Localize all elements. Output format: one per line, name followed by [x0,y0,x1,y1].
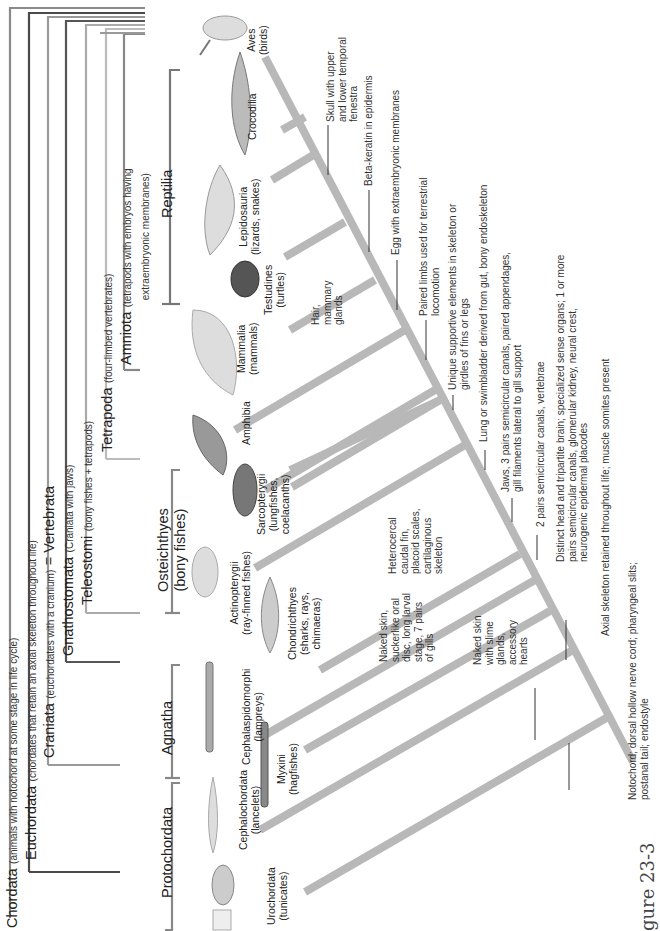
label-chordata: Chordata (animals with notochord at some… [3,638,21,928]
turtle-illustration [225,252,265,307]
trait-mammalia: Hair,mammaryglands [310,281,345,325]
character-lung: Lung or swimbladder derived from gut, bo… [478,185,490,442]
taxon-myxini: Myxini(hagfishes) [275,743,299,795]
label-teleostomi: Teleostomi (bony fishes + tetrapods) [78,421,96,605]
character-distinct-head: Distinct head and tripartite brain; spec… [555,255,590,562]
label-euchordata: Euchordata (chordates that retain an axi… [22,540,40,860]
label-osteichthyes: Osteichthyes (bony fishes) [155,508,188,592]
taxon-testudines: Testudines(turtles) [262,265,286,315]
lamprey-illustration [200,660,220,755]
rayfinned-fish-illustration [185,540,225,605]
label-amniota: Amniota (tetrapods with embryos having e… [117,168,154,365]
taxon-chondrichthyes: Chondrichthyes(sharks, rays,chimaeras) [286,587,322,660]
character-paired-limbs: Paired limbs used for terrestriallocomot… [418,178,441,316]
taxon-amphibia: Amphibia [240,401,252,445]
lancelet-illustration [203,775,223,855]
taxon-actinopterygii: Actinopterygii(ray-finned fishes) [228,551,252,635]
label-agnatha: Agnatha [158,701,176,755]
character-supportive-elements: Unique supportive elements in skeleton o… [447,204,470,390]
shark-illustration [255,575,285,655]
taxon-lepidosauria: Lepidosauria(lizards, snakes) [237,179,261,255]
taxon-cephalaspidomorphi: Cephalaspidomorphi(lampreys) [240,669,264,765]
character-beta-keratin: Beta-keratin in epidermis [363,75,375,186]
label-tetrapoda: Tetrapoda (four-limbed vertebrates) [98,274,116,452]
character-notochord: Notochord; dorsal hollow nerve cord; pha… [627,562,650,800]
taxon-sarcopterygii: Sarcopterygii(lungfishes,coelacanths) [255,474,291,535]
trait-lamprey: Naked skin,suckerlike oraldisc, long lar… [378,593,436,662]
character-jaws: Jaws, 3 pairs semicircular canals, paire… [500,252,523,492]
figure-caption: gure 23-3 [638,842,659,931]
taxon-urochordata: Urochordata(tunicates) [265,867,289,925]
character-semicircular-canals: 2 pairs semicircular canals, vertebrae [535,361,547,527]
character-skull-fenestra: Skull with upperand lower temporalfenest… [325,37,360,122]
label-protochordata: Protochordata [158,807,176,898]
character-egg-membranes: Egg with extraembryonic membranes [390,90,402,255]
taxon-mammalia: Mammalia(mammals) [235,323,259,376]
taxon-aves: Aves(birds) [245,25,269,55]
label-craniata: Craniata (euchordates with a cranium) = … [40,486,58,758]
trait-hagfish: Naked skinwith slimeglands,accessoryhear… [472,616,530,665]
tunicate-illustration [205,860,245,931]
label-gnathostomata: Gnathostomata (Craniata with jaws) [59,465,77,656]
trait-chondrichthyes: Heterocercalcaudal fin,placoid scales,ca… [387,508,445,574]
taxon-crocodilia: Crocodilia [246,93,258,140]
label-reptilia: Reptilia [158,170,176,218]
taxon-cephalochordata: Cephalochordata(lancelets) [237,770,261,850]
character-axial-skeleton: Axial skeleton retained throughout life;… [600,359,612,636]
